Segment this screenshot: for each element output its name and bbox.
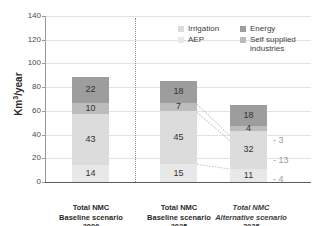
gridline-140 [46, 16, 311, 17]
xcat-year: 2000 [48, 222, 134, 226]
segment-value: 18 [173, 87, 183, 96]
segment-value: 22 [85, 85, 95, 94]
xcat-baseline-2000: Total NMC Baseline scenario 2000 [48, 203, 134, 226]
segment-value: 18 [243, 111, 253, 120]
bar-baseline-2025[interactable]: 18 7 45 15 [160, 81, 197, 182]
legend-item-aep[interactable]: AEP [178, 35, 240, 44]
segment-irrigation[interactable]: 32 [230, 131, 267, 169]
y-axis-title-exponent: 3 [12, 96, 19, 100]
segment-self-supplied-industries[interactable]: 7 [160, 103, 197, 111]
legend-swatch-irrigation-icon [178, 26, 184, 32]
segment-self-supplied-industries[interactable]: 10 [72, 103, 109, 115]
xcat-line2: Baseline scenario [59, 213, 123, 222]
legend-swatch-energy-icon [240, 26, 246, 32]
legend-label-energy: Energy [250, 24, 275, 33]
ytick-mark-40 [42, 135, 45, 136]
chart-legend: Irrigation Energy AEP Self supplied indu… [178, 24, 318, 55]
legend-item-energy[interactable]: Energy [240, 24, 318, 33]
xcat-line1: Total NMC [233, 203, 270, 212]
segment-irrigation[interactable]: 45 [160, 111, 197, 164]
ytick-mark-140 [42, 16, 45, 17]
stacked-bar-chart: Km3/year 140 120 100 80 60 40 20 0 [0, 0, 318, 226]
legend-item-irrigation[interactable]: Irrigation [178, 24, 240, 33]
xcat-alternative-2025: Total NMC Alternative scenario 2025 [205, 203, 297, 226]
ytick-mark-60 [42, 111, 45, 112]
segment-aep[interactable]: 15 [160, 164, 197, 182]
segment-energy[interactable]: 18 [160, 81, 197, 102]
xcat-year: 2025 [205, 222, 297, 226]
ytick-mark-80 [42, 87, 45, 88]
ytick-label-120: 120 [15, 36, 41, 44]
ytick-mark-0 [42, 182, 45, 183]
segment-value: 10 [85, 104, 95, 113]
segment-value: 15 [173, 169, 183, 178]
ytick-label-80: 80 [15, 83, 41, 91]
ytick-mark-20 [42, 158, 45, 159]
segment-energy[interactable]: 22 [72, 77, 109, 103]
bar-alternative-2025[interactable]: 18 4 32 11 [230, 105, 267, 182]
ytick-label-60: 60 [15, 107, 41, 115]
legend-item-self-supplied-industries[interactable]: Self supplied industries [240, 35, 318, 53]
legend-label-aep: AEP [188, 35, 204, 44]
delta-aep: - 4 [273, 174, 284, 184]
xcat-line1: Total NMC [161, 203, 198, 212]
ytick-label-0: 0 [15, 178, 41, 186]
legend-row-1: Irrigation Energy [178, 24, 318, 33]
connector-aep-top [197, 164, 230, 169]
legend-row-2: AEP Self supplied industries [178, 35, 318, 53]
segment-value: 7 [176, 102, 181, 111]
legend-label-self-supplied-industries: Self supplied industries [250, 35, 318, 53]
ytick-label-140: 140 [15, 12, 41, 20]
segment-value: 11 [244, 171, 253, 180]
delta-irrigation: - 13 [273, 155, 289, 165]
delta-self-supplied-industries: - 3 [273, 135, 284, 145]
legend-label-irrigation: Irrigation [188, 24, 219, 33]
x-axis-line [45, 182, 311, 183]
xcat-line2: Alternative scenario [215, 213, 287, 222]
segment-value: 43 [85, 135, 95, 144]
scenario-divider [135, 18, 136, 182]
ytick-mark-120 [42, 40, 45, 41]
segment-aep[interactable]: 11 [230, 169, 267, 182]
segment-irrigation[interactable]: 43 [72, 114, 109, 165]
ytick-label-40: 40 [15, 131, 41, 139]
bar-baseline-2000[interactable]: 22 10 43 14 [72, 77, 109, 183]
segment-value: 32 [243, 145, 253, 154]
ytick-mark-100 [42, 63, 45, 64]
gridline-100 [46, 63, 311, 64]
segment-value: 45 [173, 133, 183, 142]
connector-energy-bottom [197, 104, 230, 136]
segment-aep[interactable]: 14 [72, 165, 109, 182]
segment-value: 14 [85, 169, 95, 178]
ytick-label-20: 20 [15, 154, 41, 162]
legend-swatch-aep-icon [178, 37, 184, 43]
xcat-line2: Baseline scenario [147, 213, 211, 222]
legend-swatch-self-supplied-industries-icon [240, 37, 246, 43]
xcat-line1: Total NMC [73, 203, 110, 212]
ytick-label-100: 100 [15, 59, 41, 67]
connector-ssi-bottom [197, 113, 230, 141]
